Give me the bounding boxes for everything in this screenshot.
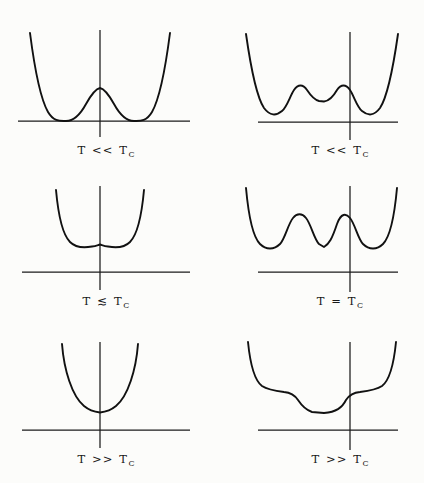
caption-reference: T [353, 143, 362, 157]
plot-panel-top-left: T << TC [0, 6, 212, 167]
caption-subscript: C [362, 150, 369, 159]
plot-panel-bottom-left: T >> TC [0, 322, 212, 483]
panel-caption-top-right: T << TC [234, 143, 424, 159]
caption-reference: T [348, 294, 357, 308]
plot-panel-top-right: T << TC [212, 6, 424, 167]
caption-subscript: C [123, 301, 130, 310]
caption-reference: T [114, 294, 123, 308]
potential-curve-four-degenerate-wells [246, 188, 397, 249]
caption-reference: T [353, 452, 362, 466]
plot-panel-middle-left: T ≲ TC [0, 168, 212, 329]
potential-curve-double-well-inner-bumps [246, 34, 398, 114]
panel-caption-middle-right: T = TC [234, 294, 424, 310]
caption-relation: >> [325, 452, 348, 466]
caption-relation: ≲ [96, 294, 109, 308]
panel-caption-top-left: T << TC [0, 143, 212, 159]
figure-root: T << TC T << TC T ≲ TC [0, 0, 424, 483]
plot-panel-middle-right: T = TC [212, 168, 424, 329]
caption-relation: << [325, 143, 348, 157]
caption-variable: T [77, 452, 86, 466]
caption-subscript: C [362, 459, 369, 468]
caption-reference: T [119, 452, 128, 466]
panel-caption-bottom-left: T >> TC [0, 452, 212, 468]
caption-subscript: C [357, 301, 364, 310]
caption-variable: T [83, 294, 92, 308]
caption-reference: T [119, 143, 128, 157]
caption-subscript: C [128, 459, 135, 468]
panel-caption-middle-left: T ≲ TC [0, 294, 212, 310]
caption-relation: = [330, 294, 343, 308]
caption-variable: T [311, 143, 320, 157]
caption-relation: >> [91, 452, 114, 466]
panel-caption-bottom-right: T >> TC [234, 452, 424, 468]
plot-panel-bottom-right: T >> TC [212, 322, 424, 483]
caption-variable: T [77, 143, 86, 157]
caption-variable: T [317, 294, 326, 308]
potential-curve-single-well-with-shoulders [248, 342, 396, 413]
caption-variable: T [311, 452, 320, 466]
caption-subscript: C [128, 150, 135, 159]
caption-relation: << [91, 143, 114, 157]
